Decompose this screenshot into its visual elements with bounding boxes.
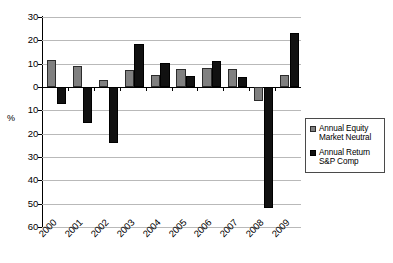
legend-label-series-b-line2: S&P Comp: [319, 157, 359, 166]
gridline: [42, 64, 301, 65]
y-axis-tick-label: 10: [16, 59, 38, 69]
x-axis-tick-mark: [223, 87, 224, 91]
gridline: [42, 180, 301, 181]
y-axis-tick-label: 20: [16, 35, 38, 45]
bar: [176, 69, 185, 87]
legend: Annual Equity Market Neutral Annual Retu…: [305, 118, 385, 173]
y-axis-tick-label: 40: [16, 175, 38, 185]
legend-item-equity-market-neutral: Annual Equity Market Neutral: [310, 124, 381, 143]
gridline: [42, 157, 301, 158]
x-axis-tick-mark: [275, 87, 276, 91]
x-axis-tick-mark: [249, 87, 250, 91]
legend-label-series-a-line2: Market Neutral: [319, 133, 371, 142]
legend-label-series-b-line1: Annual Return: [319, 148, 370, 157]
x-axis-tick-mark: [197, 87, 198, 91]
bar: [202, 68, 211, 87]
y-axis-tick-label: 30: [16, 152, 38, 162]
bar: [228, 69, 237, 87]
bar: [160, 63, 169, 87]
bar: [57, 87, 66, 104]
bar: [151, 75, 160, 87]
legend-item-sp-comp: Annual Return S&P Comp: [310, 148, 381, 167]
y-axis-tick-label: 20: [16, 129, 38, 139]
bar: [290, 33, 299, 87]
x-axis-tick-mark: [172, 87, 173, 91]
legend-label-series-a: Annual Equity Market Neutral: [319, 124, 371, 143]
x-axis-tick-mark: [120, 87, 121, 91]
bar: [109, 87, 118, 143]
x-axis-tick-mark: [94, 87, 95, 91]
legend-swatch-icon-series-b: [310, 150, 316, 156]
x-axis-tick-mark: [42, 87, 43, 91]
gridline: [42, 17, 301, 18]
bar: [264, 87, 273, 208]
y-axis-tick-label: 0: [16, 82, 38, 92]
bar: [254, 87, 263, 101]
gridline: [42, 110, 301, 111]
bar-chart: % 3020100102030405060 200020012002200320…: [0, 0, 393, 263]
bar: [83, 87, 92, 123]
bar: [134, 44, 143, 87]
gridline: [42, 204, 301, 205]
bar: [73, 66, 82, 87]
gridline: [42, 40, 301, 41]
x-axis-tick-mark: [146, 87, 147, 91]
legend-label-series-b: Annual Return S&P Comp: [319, 148, 370, 167]
bar: [238, 77, 247, 87]
y-axis-tick-label: 60: [16, 222, 38, 232]
plot-area: [42, 17, 301, 227]
y-axis-tick-label: 30: [16, 12, 38, 22]
x-axis-tick-label: 2000: [37, 218, 58, 239]
x-axis-tick-mark: [68, 87, 69, 91]
bar: [99, 80, 108, 87]
legend-swatch-icon-series-a: [310, 126, 316, 132]
gridline: [42, 134, 301, 135]
bar: [212, 61, 221, 87]
y-axis-tick-label: 50: [16, 199, 38, 209]
bar: [280, 75, 289, 87]
bar: [47, 60, 56, 87]
bar: [186, 76, 195, 87]
legend-label-series-a-line1: Annual Equity: [319, 124, 368, 133]
y-axis-tick-label: 10: [16, 105, 38, 115]
bar: [125, 70, 134, 87]
